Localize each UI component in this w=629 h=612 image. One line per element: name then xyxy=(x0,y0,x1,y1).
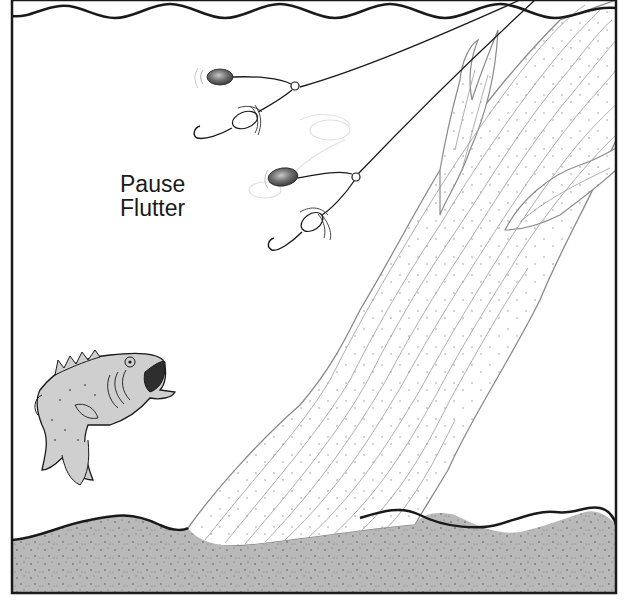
tree-trunk xyxy=(188,0,616,546)
water-surface xyxy=(12,4,616,18)
caption-line-1: Pause xyxy=(120,172,185,196)
caption-label: Pause Flutter xyxy=(120,172,185,220)
bass-fish xyxy=(35,350,175,485)
spinner-blade-icon xyxy=(267,166,299,188)
spinnerbait-upper xyxy=(194,68,299,138)
spinnerbait-lower xyxy=(265,166,360,250)
ghost-lure-trail xyxy=(249,115,350,198)
illustration-scene xyxy=(0,0,629,612)
spinner-blade-icon xyxy=(207,69,233,85)
caption-line-2: Flutter xyxy=(120,196,185,220)
